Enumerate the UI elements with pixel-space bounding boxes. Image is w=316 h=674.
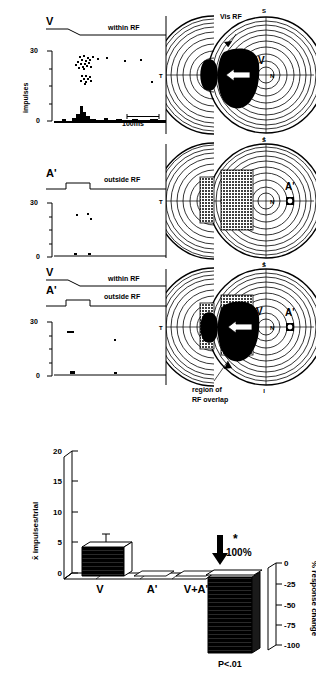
- scalebar-label: 100ms: [122, 120, 144, 127]
- bar-right-yaxis-label: % response change: [310, 561, 316, 637]
- raster-yaxis-3: [44, 321, 54, 377]
- stimulus-label-v-combined: V: [46, 267, 53, 278]
- bar-ytick-15: 15: [53, 477, 62, 486]
- pvalue-label: P<.01: [218, 659, 242, 669]
- stimulus-trace-v-combined: [46, 277, 166, 293]
- field-map-auditory: A' S I T N: [166, 142, 314, 260]
- field-label-temporal-2: T: [159, 199, 163, 205]
- bar-response-change: [206, 570, 262, 653]
- field-label-superior-2: S: [262, 137, 266, 143]
- raster-ytick-max-1: 30: [30, 47, 38, 54]
- bar-ytick-10: 10: [53, 508, 62, 517]
- field-map-combined: V A' S I T N: [166, 265, 314, 387]
- speaker-icon-a-combined: [286, 323, 294, 331]
- raster-yaxis-label: impulses: [22, 83, 29, 113]
- field-label-temporal-1: T: [159, 73, 163, 79]
- field-label-nasal-1: N: [270, 73, 274, 79]
- field-label-temporal-3: T: [159, 325, 163, 331]
- bar-right-ytick-0: 0: [284, 559, 289, 568]
- field-annotation-v: V: [258, 55, 265, 66]
- bar-right-ytick-75: -75: [284, 621, 296, 630]
- bar-right-ytick-100: -100: [284, 641, 301, 650]
- condition-label-within-rf: within RF: [108, 24, 140, 31]
- bar-category-a: A': [147, 583, 158, 595]
- stimulus-label-a: A': [46, 168, 57, 179]
- panel-auditory: A' outside RF 30 0: [0, 140, 316, 265]
- annotation-overlap-line2: RF overlap: [192, 396, 228, 403]
- field-label-superior-3: S: [262, 262, 266, 268]
- figure-root: V within RF 30 0 impulses: [0, 0, 316, 674]
- stimulus-trace-v: [46, 26, 166, 42]
- scalebar-100ms: [126, 113, 160, 120]
- panel-visual: V within RF 30 0 impulses: [0, 0, 316, 140]
- bar-v: [82, 534, 132, 576]
- field-annotation-a-combined: A': [285, 307, 295, 318]
- raster-ytick-min-2: 0: [36, 253, 40, 260]
- svg-text:D: D: [252, 66, 256, 72]
- bar-chart-svg: 20 15 10 5 0 x̄ impulses/trial V: [0, 435, 316, 674]
- field-label-nasal-2: N: [270, 199, 274, 205]
- raster-ytick-max-2: 30: [30, 199, 38, 206]
- bar-ytick-5: 5: [58, 538, 63, 547]
- raster-ytick-min-1: 0: [36, 117, 40, 124]
- field-annotation-a: A': [285, 181, 295, 192]
- field-annotation-v-combined: V: [256, 306, 263, 317]
- bar-ytick-20: 20: [53, 447, 62, 456]
- raster-yaxis-1: [44, 50, 54, 122]
- stimulus-label-a-combined: A': [46, 285, 57, 296]
- bar-category-va: V+A': [184, 583, 209, 595]
- speaker-icon-a: [286, 197, 294, 205]
- raster-plot-2: [54, 202, 166, 260]
- field-label-nasal-3: N: [270, 325, 274, 331]
- field-label-superior-1: S: [262, 8, 266, 14]
- bar-right-ytick-50: -50: [284, 601, 296, 610]
- field-map-visual: S I T N V D: [166, 14, 314, 136]
- bar-yaxis-label: x̄ impulses/trial: [31, 502, 40, 560]
- bar-right-ytick-25: -25: [284, 580, 296, 589]
- raster-ytick-max-3: 30: [30, 318, 38, 325]
- panel-combined: V within RF A' outside RF 30 0: [0, 265, 316, 425]
- annotation-vis-rf: Vis RF: [220, 13, 242, 20]
- condition-label-outside-rf-combined: outside RF: [104, 293, 140, 300]
- raster-yaxis-2: [44, 202, 54, 258]
- field-label-inferior-3: I: [263, 388, 265, 394]
- condition-label-within-rf-combined: within RF: [108, 275, 140, 282]
- annotation-overlap-line1: region of: [192, 386, 222, 393]
- bar-a: [134, 571, 174, 576]
- response-change-value-label: 100%: [226, 547, 252, 558]
- significance-asterisk: *: [233, 532, 238, 546]
- bar-category-v: V: [96, 583, 104, 595]
- raster-ytick-min-3: 0: [36, 372, 40, 379]
- stimulus-label-v: V: [46, 16, 53, 27]
- raster-plot-3: [54, 321, 166, 379]
- bar-ytick-0: 0: [58, 569, 63, 578]
- summary-bar-chart: 20 15 10 5 0 x̄ impulses/trial V: [0, 435, 316, 674]
- condition-label-outside-rf: outside RF: [104, 176, 140, 183]
